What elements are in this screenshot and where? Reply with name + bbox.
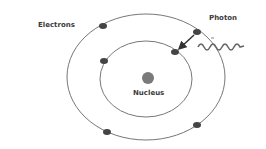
electron-inner-1 <box>100 58 108 64</box>
atom-diagram: Electrons Photon Nucleus <box>0 0 266 149</box>
transition-arrow <box>180 35 194 48</box>
nucleus-label: Nucleus <box>133 89 164 97</box>
nucleus <box>142 72 154 84</box>
electron-outer-2 <box>193 29 201 35</box>
electron-outer-1 <box>99 23 107 29</box>
electron-inner-2 <box>171 49 179 55</box>
electron-outer-4 <box>103 129 111 135</box>
electrons-label: Electrons <box>38 21 75 29</box>
photon-label: Photon <box>209 14 237 22</box>
photon-wave-icon <box>198 44 244 50</box>
electron-outer-3 <box>193 122 201 128</box>
